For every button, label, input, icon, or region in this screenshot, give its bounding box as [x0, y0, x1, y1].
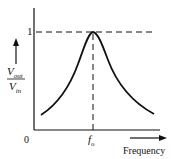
up-arrow-icon [13, 38, 19, 46]
y-axis-label-denominator: Vin [9, 81, 21, 95]
origin-label: 0 [24, 135, 29, 145]
v-out-subscript: out [14, 72, 23, 80]
v-in-symbol: V [9, 80, 16, 92]
resonant-frequency-label: fo [88, 134, 95, 148]
v-out-symbol: V [7, 65, 14, 77]
f-subscript: o [91, 140, 95, 148]
y-axis-label-numerator: Vout [7, 66, 23, 80]
y-tick-label-one: 1 [27, 26, 33, 37]
resonance-curve [41, 32, 154, 115]
right-arrow-icon [159, 135, 167, 141]
v-in-subscript: in [16, 87, 21, 95]
x-axis-label: Frequency [123, 146, 165, 156]
